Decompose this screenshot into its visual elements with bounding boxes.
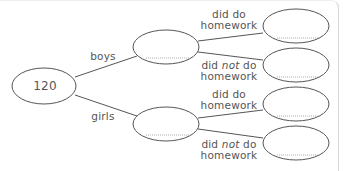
- branch-label-boys: boys: [88, 51, 118, 62]
- branch-girls-did-line: [198, 110, 263, 118]
- branch-boys-did-line: [198, 33, 263, 41]
- label-girls-did: did do homework: [196, 89, 262, 111]
- branch-label-girls: girls: [88, 111, 118, 122]
- branch-girls-didnot-line: [198, 129, 263, 138]
- label-boys-didnot: did not do homework: [196, 60, 262, 82]
- girls-ellipse[interactable]: [133, 107, 199, 141]
- root-value: 120: [30, 80, 60, 92]
- boys-ellipse[interactable]: [133, 30, 199, 64]
- label-boys-did: did do homework: [196, 9, 262, 31]
- label-girls-didnot: did not do homework: [196, 139, 262, 161]
